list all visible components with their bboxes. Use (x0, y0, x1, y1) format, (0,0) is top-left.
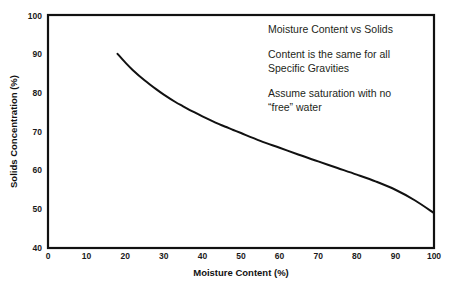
y-tick-label: 80 (33, 88, 43, 98)
x-tick-label: 90 (391, 251, 401, 261)
x-tick-label: 100 (427, 251, 441, 261)
y-tick-label: 90 (33, 49, 43, 59)
y-tick-label: 50 (33, 204, 43, 214)
x-tick-label: 40 (198, 251, 208, 261)
x-tick-label: 80 (352, 251, 362, 261)
y-axis-title: Solids Concentration (%) (8, 75, 19, 188)
annotation-line-content-1: Content is the same for all (268, 48, 390, 60)
x-tick-label: 0 (46, 251, 51, 261)
x-tick-label: 20 (120, 251, 130, 261)
x-tick-label: 70 (313, 251, 323, 261)
annotation-line-title: Moisture Content vs Solids (268, 23, 393, 35)
y-tick-label: 60 (33, 165, 43, 175)
chart-svg: 0 10 20 30 40 50 60 70 80 90 100 40 50 6… (0, 0, 455, 290)
annotation-line-content-2: Specific Gravities (268, 62, 349, 74)
x-tick-label: 30 (159, 251, 169, 261)
x-axis-title: Moisture Content (%) (193, 267, 289, 278)
annotation-line-assume-1: Assume saturation with no (268, 87, 391, 99)
y-tick-label: 70 (33, 127, 43, 137)
chart-figure: 0 10 20 30 40 50 60 70 80 90 100 40 50 6… (0, 0, 455, 290)
annotation-line-assume-2: “free” water (268, 101, 322, 113)
y-tick-label: 40 (33, 243, 43, 253)
x-tick-label: 60 (275, 251, 285, 261)
x-tick-label: 10 (82, 251, 92, 261)
y-tick-label: 100 (28, 11, 42, 21)
x-tick-label: 50 (236, 251, 246, 261)
